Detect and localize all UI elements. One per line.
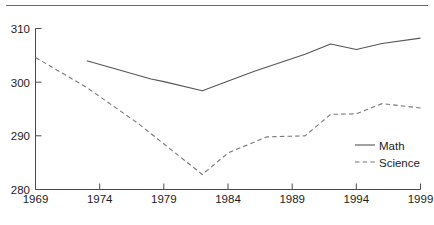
x-tick-label-1999: 1999 — [408, 193, 434, 205]
legend-label-math: Math — [379, 140, 405, 152]
chart-page: 310 300 290 280 1969 1974 1979 1984 1989… — [0, 0, 434, 225]
x-tick-label-1984: 1984 — [215, 193, 241, 205]
x-tick-label-1989: 1989 — [279, 193, 305, 205]
y-tick-label-300: 300 — [11, 77, 30, 89]
x-tick-label-1974: 1974 — [87, 193, 113, 205]
line-chart-plot: 310 300 290 280 1969 1974 1979 1984 1989… — [0, 0, 434, 225]
x-tick-label-1994: 1994 — [344, 193, 370, 205]
x-axis-ticks — [36, 184, 421, 190]
y-tick-label-290: 290 — [11, 130, 30, 142]
legend-label-science: Science — [379, 157, 420, 169]
x-tick-label-1969: 1969 — [23, 193, 49, 205]
y-tick-label-310: 310 — [11, 23, 30, 35]
series-line-math — [87, 38, 421, 91]
series-line-science — [36, 57, 421, 174]
chart-legend: Math Science — [355, 140, 420, 169]
x-tick-label-1979: 1979 — [151, 193, 177, 205]
y-axis-ticks — [36, 29, 42, 190]
